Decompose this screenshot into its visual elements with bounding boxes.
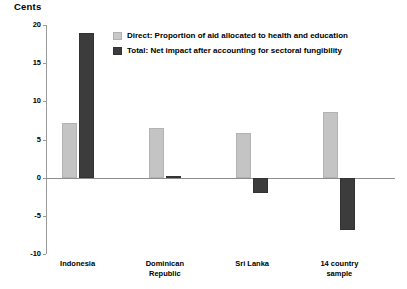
legend-label-direct: Direct: Proportion of aid allocated to h…: [127, 31, 348, 41]
bar-total: [79, 33, 94, 178]
chart-legend: Direct: Proportion of aid allocated to h…: [113, 29, 348, 59]
y-tick-label: 10: [33, 97, 41, 105]
bar-total: [340, 178, 355, 230]
legend-swatch-icon-total: [113, 47, 122, 55]
x-axis-label: Indonesia: [38, 259, 118, 269]
y-tick-label: 20: [33, 21, 41, 29]
y-tick-mark: [43, 216, 46, 217]
y-tick-label: -5: [34, 212, 41, 220]
y-tick-label: 5: [37, 136, 41, 144]
legend-label-total: Total: Net impact after accounting for s…: [127, 46, 342, 56]
plot-area: 20151050-5-10 IndonesiaDominican Republi…: [46, 25, 395, 254]
y-tick-mark: [43, 254, 46, 255]
legend-item-total: Total: Net impact after accounting for s…: [113, 44, 348, 57]
y-axis-line: [46, 25, 47, 254]
bar-total: [166, 176, 181, 178]
y-tick-label: 15: [33, 59, 41, 67]
bar-direct: [236, 133, 251, 177]
legend-swatch-icon-direct: [113, 32, 122, 40]
bar-direct: [149, 128, 164, 178]
y-tick-mark: [43, 25, 46, 26]
x-axis-label: Dominican Republic: [125, 259, 205, 278]
bar-chart: Cents 20151050-5-10 IndonesiaDominican R…: [0, 0, 407, 289]
bar-direct: [323, 112, 338, 178]
y-tick-label: -10: [30, 250, 41, 258]
x-axis-label: 14 country sample: [299, 259, 379, 278]
chart-title: Cents: [14, 1, 41, 13]
bar-total: [253, 178, 268, 193]
y-tick-mark: [43, 140, 46, 141]
y-tick-label: 0: [37, 174, 41, 182]
y-tick-mark: [43, 101, 46, 102]
y-tick-mark: [43, 178, 46, 179]
x-axis-label: Sri Lanka: [212, 259, 292, 269]
bar-direct: [62, 123, 77, 177]
legend-item-direct: Direct: Proportion of aid allocated to h…: [113, 29, 348, 42]
y-tick-mark: [43, 63, 46, 64]
